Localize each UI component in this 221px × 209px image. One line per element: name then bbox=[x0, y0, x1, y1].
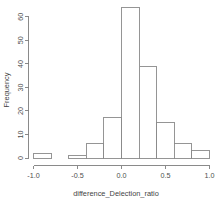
histogram-bar bbox=[34, 153, 52, 158]
histogram-bar bbox=[104, 118, 122, 158]
y-tick-label: 40 bbox=[16, 60, 25, 68]
y-tick-label: 60 bbox=[16, 13, 25, 21]
histogram-bar bbox=[139, 66, 157, 158]
x-tick-label: -0.5 bbox=[71, 171, 83, 180]
histogram-bar bbox=[174, 144, 192, 158]
histogram-plot: 0 10 20 30 40 50 60 -1.0 -0.5 0.0 0.5 1.… bbox=[0, 0, 221, 209]
x-axis: -1.0 -0.5 0.0 0.5 1.0 bbox=[27, 166, 214, 181]
y-axis-title: Frequency bbox=[2, 72, 11, 107]
histogram-figure: 0 10 20 30 40 50 60 -1.0 -0.5 0.0 0.5 1.… bbox=[0, 0, 221, 209]
x-tick-label: -1.0 bbox=[27, 171, 39, 180]
y-tick-label: 30 bbox=[16, 83, 25, 91]
x-tick-label: 1.0 bbox=[205, 171, 215, 180]
y-axis: 0 10 20 30 40 50 60 bbox=[16, 13, 28, 160]
y-tick-label: 50 bbox=[16, 36, 25, 44]
histogram-bar bbox=[69, 156, 87, 158]
x-axis-title: difference_Delection_ratio bbox=[73, 189, 159, 198]
histogram-bar bbox=[157, 123, 175, 158]
histogram-bar bbox=[122, 7, 140, 158]
y-tick-label: 10 bbox=[16, 131, 25, 139]
y-tick-label: 20 bbox=[16, 107, 25, 115]
histogram-bars bbox=[34, 7, 210, 158]
histogram-bar bbox=[86, 144, 104, 158]
x-tick-label: 0.0 bbox=[117, 171, 127, 180]
x-tick-label: 0.5 bbox=[161, 171, 171, 180]
y-tick-label: 0 bbox=[16, 156, 25, 160]
histogram-bar bbox=[192, 151, 210, 158]
